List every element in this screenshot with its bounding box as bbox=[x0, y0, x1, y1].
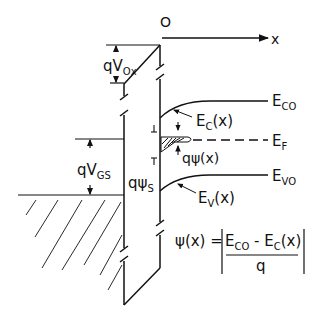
gate-region bbox=[18, 139, 124, 290]
equation-lhs: ψ(x) = bbox=[175, 232, 223, 250]
equation-numerator: ECO - EC(x) bbox=[225, 232, 301, 252]
ec0-label: ECO bbox=[272, 92, 296, 112]
equation-denominator: q bbox=[256, 257, 266, 275]
qpsis-dimension bbox=[151, 125, 157, 165]
ecx-pointer bbox=[174, 110, 192, 117]
ef-label: EF bbox=[272, 132, 287, 152]
evx-pointer bbox=[178, 184, 196, 193]
psi-equation: ψ(x) = ECO - EC(x) q bbox=[175, 229, 304, 275]
ecx-label: EC(x) bbox=[196, 112, 233, 132]
ev0-label: EVO bbox=[272, 167, 296, 187]
qvox-label: qVOx bbox=[103, 57, 137, 77]
x-axis-label: x bbox=[271, 31, 279, 47]
qpsis-label: qψS bbox=[128, 174, 154, 194]
evx-label: EV(x) bbox=[198, 189, 235, 209]
qpsix-label: qψ(x) bbox=[182, 150, 219, 166]
origin-label: O bbox=[160, 14, 171, 30]
qvgs-label: qVGS bbox=[77, 161, 111, 181]
band-diagram: O x qVOx bbox=[0, 0, 318, 321]
